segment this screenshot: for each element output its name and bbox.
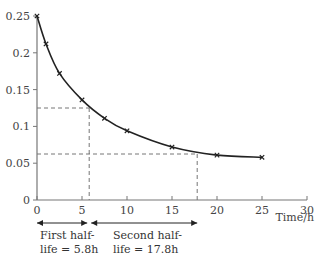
- half-life-chart: 05101520253000.050.10.150.20.25 Time/h F…: [0, 0, 322, 261]
- half-life-annotation: Second half-life = 17.8h: [91, 220, 197, 256]
- x-tick-label: 15: [165, 204, 179, 217]
- annotation-line-2: life = 5.8h: [40, 243, 98, 256]
- y-tick-label: 0.2: [13, 47, 31, 60]
- x-tick-label: 10: [120, 204, 134, 217]
- arrow-left-icon: [91, 220, 97, 226]
- annotation-line-1: First half-: [40, 229, 95, 242]
- half-life-annotation: First half-life = 5.8h: [37, 220, 98, 256]
- y-tick-label: 0.1: [13, 120, 31, 133]
- data-point-marker: [80, 98, 84, 102]
- x-tick-label: 25: [255, 204, 269, 217]
- half-life-reference-lines: [37, 108, 197, 200]
- y-tick-label: 0.05: [6, 157, 31, 170]
- y-tick-label: 0.15: [6, 84, 31, 97]
- concentration-curve: [37, 16, 262, 157]
- x-tick-label: 5: [79, 204, 86, 217]
- decay-curve-line: [37, 16, 262, 157]
- annotation-line-1: Second half-: [113, 229, 182, 242]
- x-tick-label: 20: [210, 204, 224, 217]
- arrow-right-icon: [81, 220, 87, 226]
- y-tick-label: 0.25: [6, 10, 31, 23]
- data-point-marker: [102, 116, 106, 120]
- x-tick-label: 0: [34, 204, 41, 217]
- annotation-line-2: life = 17.8h: [113, 243, 178, 256]
- arrow-left-icon: [37, 220, 43, 226]
- data-point-marker: [57, 71, 61, 75]
- tick-labels: 05101520253000.050.10.150.20.25: [6, 10, 315, 217]
- half-life-annotations: First half-life = 5.8hSecond half-life =…: [37, 220, 197, 256]
- x-axis-label: Time/h: [275, 211, 314, 224]
- y-tick-label: 0: [23, 194, 30, 207]
- arrow-right-icon: [191, 220, 197, 226]
